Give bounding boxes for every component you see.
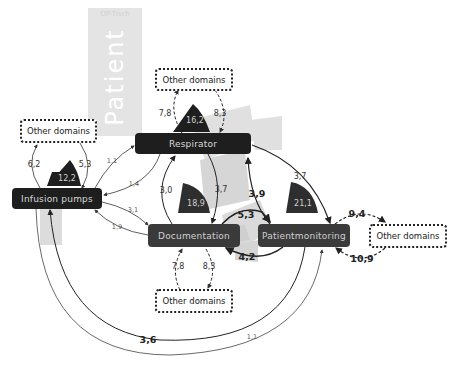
edge-label: 3,7 [294,172,307,181]
edge-label: 6,2 [28,160,41,169]
edge-label: 1,4 [129,180,139,188]
edge-label: 5,3 [79,160,92,169]
self-value-respirator: 16,2 [186,116,204,125]
self-value-documentation: 18,9 [187,199,205,208]
edge-label: 4,2 [239,251,256,262]
edge-label: 1,9 [112,223,122,231]
edge-label: 8,3 [203,262,216,271]
edge-label: 3,0 [160,186,173,195]
node-patientmonitoring: Patientmonitoring [258,224,350,247]
node-documentation: Documentation [148,224,240,247]
edge-label: 10,9 [350,253,373,264]
edge-label: 5,3 [238,209,255,220]
other-domains-bottom: Other domains [155,289,233,313]
patientmonitoring-self-shape [286,182,318,213]
edge-label: 8,3 [214,109,227,118]
other-domains-right: Other domains [369,224,447,248]
node-respirator: Respirator [135,133,251,154]
other-domains-top: Other domains [155,68,233,91]
edge-label: 3,7 [215,185,228,194]
edge-label: 1,1 [107,157,117,165]
self-value-infusion: 12,2 [58,174,76,183]
edge-label: 3,6 [140,334,157,345]
edge-label: 7,8 [159,109,172,118]
edge-label: 7,8 [172,262,185,271]
edge-label: 9,4 [349,208,366,219]
edge-label: 3,9 [249,188,266,199]
other-domains-left: Other domains [20,119,97,143]
node-infusion-pumps: Infusion pumps [12,188,102,209]
self-value-patientmonitoring: 21,1 [294,199,312,208]
edge-label: 3,1 [128,206,138,214]
edge-label: 1,1 [247,333,257,341]
